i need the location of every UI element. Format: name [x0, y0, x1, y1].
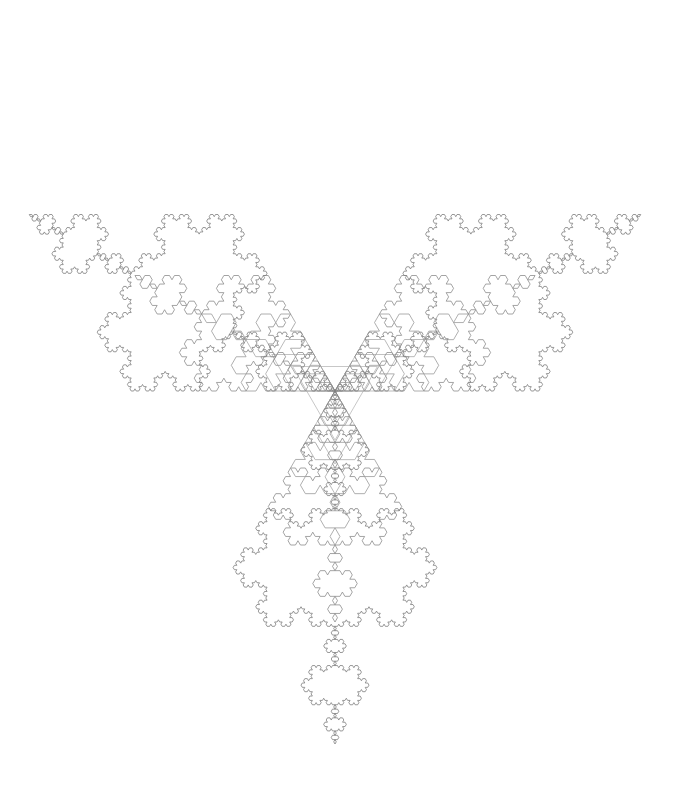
- figure-background: [0, 0, 673, 785]
- figure-canvas: [0, 0, 673, 785]
- koch-snowflake-figure: [0, 0, 673, 785]
